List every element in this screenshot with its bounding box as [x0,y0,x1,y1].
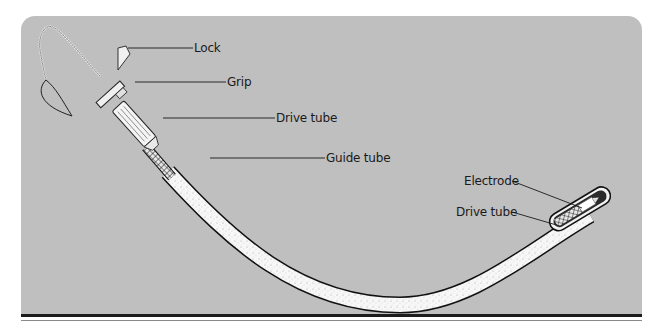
lock-clip-shape [118,46,130,70]
grip-shape [112,101,161,153]
label-drive-tube-tip: Drive tube [456,205,517,219]
label-electrode: Electrode [464,174,519,188]
catheter-diagram [0,0,662,332]
chain-icon [40,27,100,80]
guide-tube-shape [168,172,590,305]
bottom-rule-thin [21,320,642,321]
tag-loop-icon [41,80,72,116]
drive-tube-shape [146,147,172,177]
label-grip: Grip [227,75,251,89]
label-drive-tube-top: Drive tube [276,111,337,125]
label-guide-tube: Guide tube [326,151,390,165]
bottom-rule-thick [21,314,642,317]
label-lock: Lock [194,41,221,55]
